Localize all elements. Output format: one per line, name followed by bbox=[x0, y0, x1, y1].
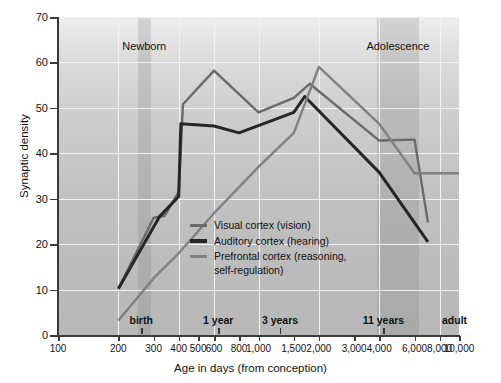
x-tick-label: 400 bbox=[170, 343, 187, 354]
legend-swatch bbox=[190, 255, 207, 258]
x-tick bbox=[415, 336, 417, 341]
x-tick bbox=[379, 336, 381, 341]
x-tick-label: 3,000 bbox=[342, 343, 367, 354]
era-tick bbox=[218, 328, 220, 334]
x-tick-label: 800 bbox=[231, 343, 248, 354]
y-tick bbox=[50, 153, 57, 155]
legend-item: Visual cortex (vision) bbox=[190, 219, 346, 233]
synaptic-density-chart: 010203040506070 1002003004005006008001,0… bbox=[0, 0, 501, 383]
x-tick-label: 1,000 bbox=[246, 343, 271, 354]
x-tick bbox=[259, 336, 261, 341]
y-tick-label: 60 bbox=[2, 57, 48, 67]
era-tick bbox=[383, 328, 385, 334]
y-axis-title: Synaptic density bbox=[18, 86, 30, 226]
y-tick bbox=[50, 199, 57, 201]
gridline-vertical bbox=[118, 17, 119, 335]
x-tick bbox=[354, 336, 356, 341]
x-tick bbox=[214, 336, 216, 341]
legend-label: Auditory cortex (hearing) bbox=[214, 235, 329, 249]
chart-legend: Visual cortex (vision)Auditory cortex (h… bbox=[190, 219, 346, 279]
legend-label: Prefrontal cortex (reasoning, self-regul… bbox=[214, 250, 346, 277]
y-tick bbox=[50, 108, 57, 110]
plot-area bbox=[58, 17, 459, 335]
x-tick-label: 300 bbox=[145, 343, 162, 354]
x-tick bbox=[294, 336, 296, 341]
era-label: 11 years bbox=[363, 314, 404, 326]
y-tick-label: 0 bbox=[2, 330, 48, 340]
era-tick bbox=[141, 328, 143, 334]
x-tick bbox=[118, 336, 120, 341]
legend-item: Auditory cortex (hearing) bbox=[190, 235, 346, 249]
shaded-band bbox=[138, 17, 151, 335]
band-label: Adolescence bbox=[366, 40, 429, 52]
y-tick-label: 70 bbox=[2, 12, 48, 22]
era-label: adult bbox=[442, 314, 467, 326]
era-tick bbox=[280, 328, 282, 334]
x-tick-label: 1,500 bbox=[281, 343, 306, 354]
x-tick bbox=[459, 336, 461, 341]
y-tick-label: 20 bbox=[2, 239, 48, 249]
y-tick bbox=[50, 17, 57, 19]
era-label: 3 years bbox=[262, 314, 298, 326]
x-tick-label: 6,000 bbox=[402, 343, 427, 354]
x-tick bbox=[58, 336, 60, 341]
gridline-vertical bbox=[259, 17, 260, 335]
y-tick bbox=[50, 290, 57, 292]
x-tick-label: 600 bbox=[206, 343, 223, 354]
y-tick bbox=[50, 62, 57, 64]
x-tick bbox=[239, 336, 241, 341]
x-tick-label: 500 bbox=[190, 343, 207, 354]
gridline-vertical bbox=[214, 17, 215, 335]
y-axis-line bbox=[57, 17, 59, 336]
y-tick bbox=[50, 244, 57, 246]
shaded-band bbox=[377, 17, 419, 335]
x-tick-label: 10,000 bbox=[444, 343, 475, 354]
gridline-vertical bbox=[179, 17, 180, 335]
y-tick bbox=[50, 335, 57, 337]
band-label: Newborn bbox=[122, 40, 166, 52]
x-tick bbox=[179, 336, 181, 341]
legend-label: Visual cortex (vision) bbox=[214, 219, 311, 233]
x-tick bbox=[198, 336, 200, 341]
legend-swatch bbox=[190, 239, 207, 243]
x-tick bbox=[319, 336, 321, 341]
gridline-vertical bbox=[440, 17, 441, 335]
x-tick-label: 200 bbox=[110, 343, 127, 354]
x-tick bbox=[440, 336, 442, 341]
gridline-vertical bbox=[379, 17, 380, 335]
gridline-vertical bbox=[319, 17, 320, 335]
x-tick-label: 2,000 bbox=[306, 343, 331, 354]
x-tick-label: 100 bbox=[50, 343, 67, 354]
legend-item: Prefrontal cortex (reasoning, self-regul… bbox=[190, 250, 346, 277]
era-label: birth bbox=[130, 314, 153, 326]
x-axis-title: Age in days (from conception) bbox=[0, 362, 501, 374]
era-label: 1 year bbox=[203, 314, 233, 326]
y-tick-label: 10 bbox=[2, 285, 48, 295]
x-tick-label: 4,000 bbox=[367, 343, 392, 354]
legend-swatch bbox=[190, 224, 207, 227]
x-tick bbox=[154, 336, 156, 341]
